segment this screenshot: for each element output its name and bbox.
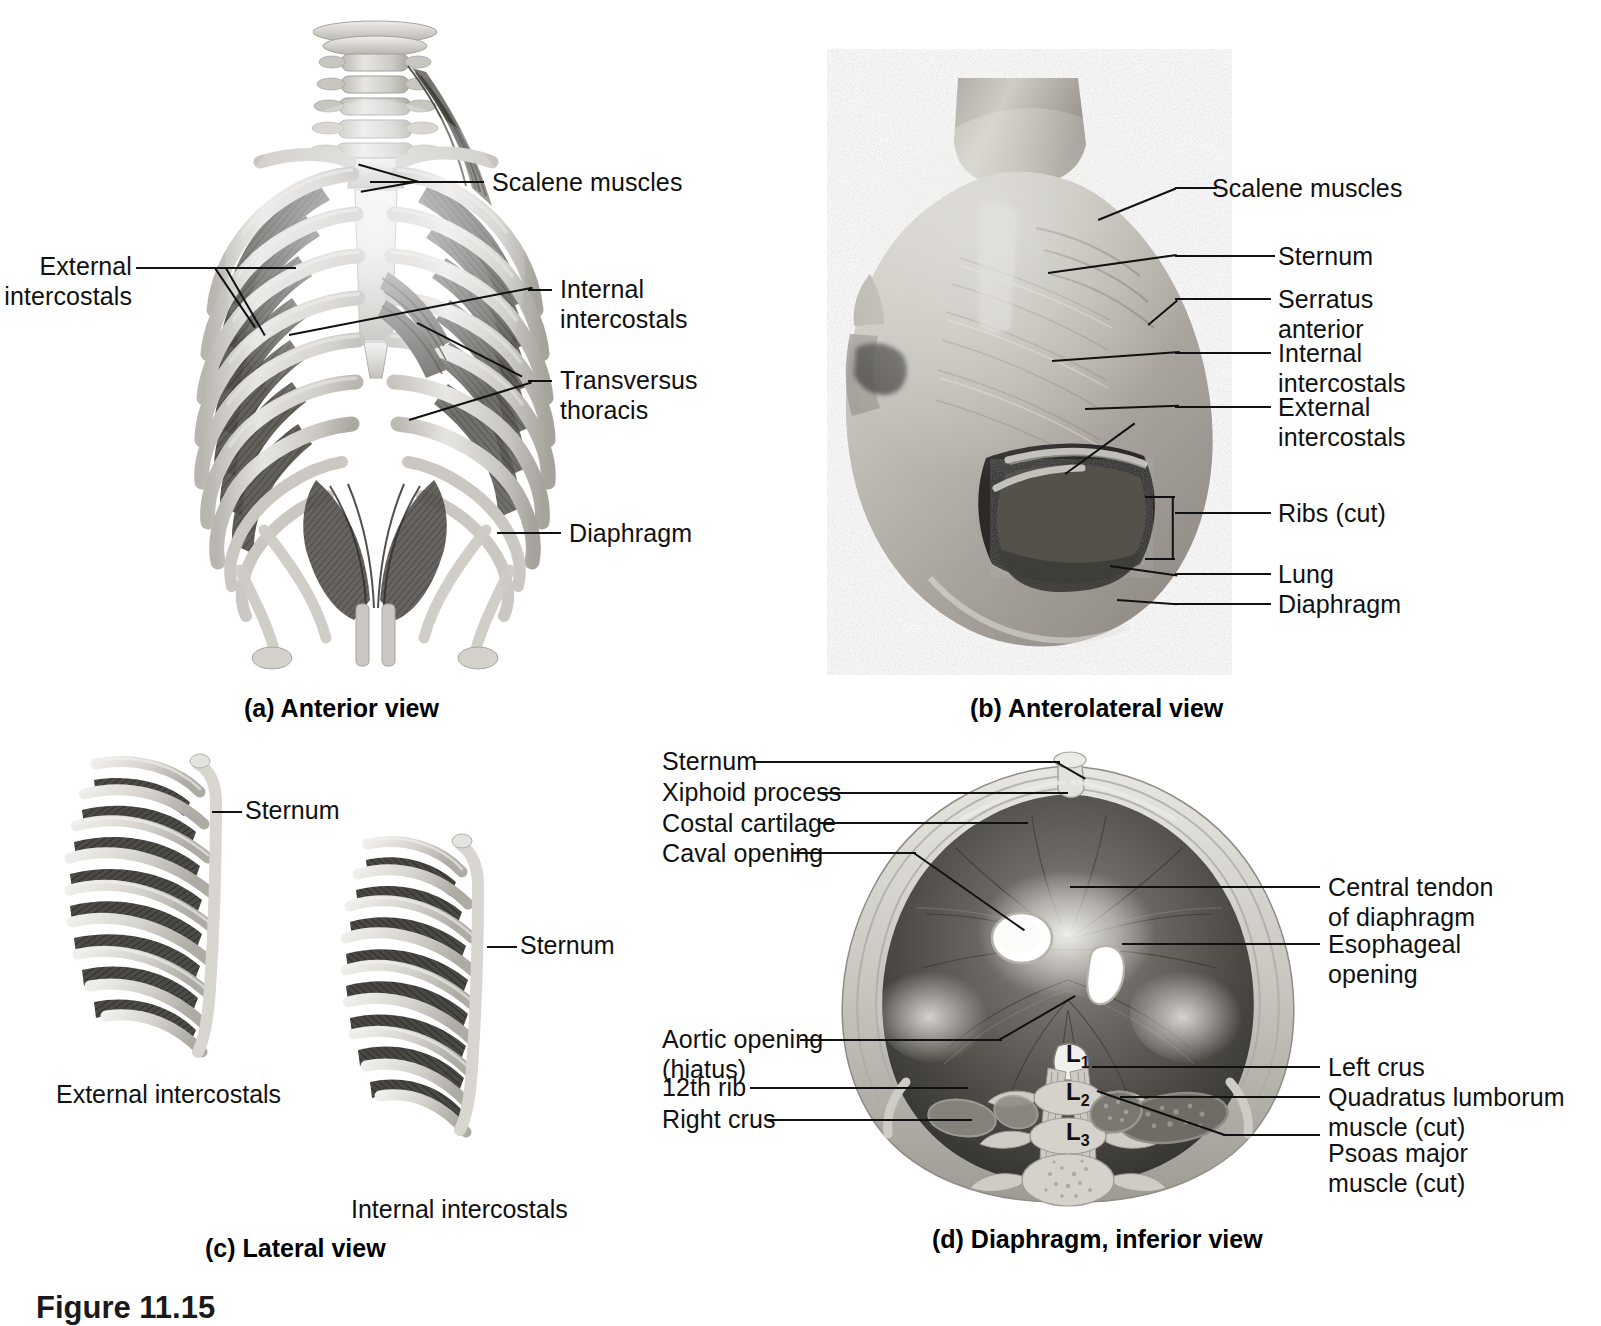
- leader-twelfth-rib-d: [750, 1087, 968, 1089]
- panel-a-artwork: [120, 10, 640, 680]
- label-quadratus-lumborum-d: Quadratus lumborum muscle (cut): [1328, 1082, 1565, 1142]
- label-caval-opening-d: Caval opening: [662, 838, 823, 868]
- label-scalene-muscles-b: Scalene muscles: [1212, 173, 1402, 203]
- label-serratus-anterior-b: Serratus anterior: [1278, 284, 1373, 344]
- label-central-tendon-d: Central tendon of diaphragm: [1328, 872, 1493, 932]
- panel-b-artwork: [810, 78, 1250, 658]
- label-lung-b: Lung: [1278, 559, 1334, 589]
- leader-diaphragm-a: [497, 532, 561, 534]
- leader-ribs-cut-b-bottom: [1145, 558, 1175, 560]
- leader-ribs-cut-b-bracket: [1172, 497, 1174, 560]
- label-internal-intercostals-a: Internal intercostals: [560, 274, 688, 334]
- label-sternum-b: Sternum: [1278, 241, 1373, 271]
- panel-a-anterior-view: Scalene muscles External intercostals In…: [0, 0, 760, 730]
- leader-ribs-cut-b: [1175, 512, 1271, 514]
- leader-quadratus-lumborum-d: [1120, 1096, 1320, 1098]
- label-scalene-muscles-a: Scalene muscles: [492, 167, 682, 197]
- caption-panel-d: (d) Diaphragm, inferior view: [932, 1225, 1263, 1254]
- leader-psoas-major-d: [1223, 1134, 1320, 1136]
- label-ribs-cut-b: Ribs (cut): [1278, 498, 1386, 528]
- label-diaphragm-b: Diaphragm: [1278, 589, 1401, 619]
- label-external-intercostals-b: External intercostals: [1278, 392, 1406, 452]
- leader-left-crus-d: [1092, 1066, 1320, 1068]
- label-internal-intercostals-b: Internal intercostals: [1278, 338, 1406, 398]
- leader-right-crus-d: [768, 1119, 972, 1121]
- leader-lung-b: [1175, 573, 1271, 575]
- caval-opening-aperture: [992, 913, 1052, 963]
- label-xiphoid-process-d: Xiphoid process: [662, 777, 841, 807]
- leader-scalene-a: [370, 181, 484, 183]
- vertebra-label-l3: L3: [1066, 1118, 1090, 1150]
- rib-set-lateral-right: [346, 834, 478, 1132]
- panel-c-internal-intercostals-artwork: [330, 826, 560, 1136]
- leader-transversus-thoracis-a: [528, 380, 552, 382]
- label-esophageal-opening-d: Esophageal opening: [1328, 929, 1461, 989]
- vertebra-l3-number: 3: [1081, 1132, 1090, 1149]
- figure-number: Figure 11.15: [36, 1290, 215, 1326]
- leader-central-tendon-d: [1070, 886, 1320, 888]
- leader-xiphoid-process-d: [818, 792, 1068, 794]
- rib-set-lateral-left: [70, 754, 216, 1052]
- label-psoas-major-d: Psoas major muscle (cut): [1328, 1138, 1468, 1198]
- vertebra-l1-number: 1: [1081, 1054, 1090, 1071]
- caption-panel-a: (a) Anterior view: [244, 694, 439, 723]
- label-twelfth-rib-d: 12th rib: [662, 1072, 746, 1102]
- label-external-intercostals-a: External intercostals: [0, 251, 132, 311]
- label-sternum-c-right: Sternum: [520, 931, 614, 960]
- vertebra-l1-letter: L: [1066, 1040, 1081, 1067]
- label-costal-cartilage-d: Costal cartilage: [662, 808, 836, 838]
- leader-scalene-b: [1175, 187, 1217, 189]
- leader-esophageal-opening-d: [1122, 943, 1320, 945]
- panel-d-diaphragm-inferior-view: Sternum Xiphoid process Costal cartilage…: [640, 730, 1601, 1311]
- label-internal-intercostals-c: Internal intercostals: [351, 1195, 568, 1224]
- leader-sternum-c-right: [487, 946, 517, 948]
- vertebra-label-l1: L1: [1066, 1040, 1090, 1072]
- leader-internal-intercostals-a: [528, 289, 552, 291]
- label-external-intercostals-c: External intercostals: [56, 1080, 281, 1109]
- leader-costal-cartilage-d: [818, 822, 1028, 824]
- leader-serratus-anterior-b: [1175, 298, 1271, 300]
- leader-diaphragm-b: [1175, 603, 1271, 605]
- panel-c-lateral-view: Sternum Sternum External intercostals In…: [0, 730, 640, 1290]
- leader-aortic-opening-d: [800, 1039, 1002, 1041]
- leader-sternum-b: [1175, 255, 1275, 257]
- vertebra-l2-number: 2: [1081, 1092, 1090, 1109]
- caption-panel-b: (b) Anterolateral view: [970, 694, 1223, 723]
- leader-sternum-d: [753, 761, 1060, 763]
- vertebra-label-l2: L2: [1066, 1078, 1090, 1110]
- panel-b-anterolateral-view: Scalene muscles Sternum Serratus anterio…: [780, 0, 1601, 730]
- label-sternum-d: Sternum: [662, 746, 757, 776]
- label-sternum-c-left: Sternum: [245, 796, 339, 825]
- leader-external-intercostals-b: [1175, 406, 1271, 408]
- leader-ribs-cut-b-top: [1145, 496, 1175, 498]
- vertebra-l3-letter: L: [1066, 1118, 1081, 1145]
- leader-internal-intercostals-b: [1175, 352, 1271, 354]
- label-right-crus-d: Right crus: [662, 1104, 776, 1134]
- label-left-crus-d: Left crus: [1328, 1052, 1425, 1082]
- leader-sternum-c-left: [212, 811, 242, 813]
- label-transversus-thoracis-a: Transversus thoracis: [560, 365, 698, 425]
- vertebra-l2-letter: L: [1066, 1078, 1081, 1105]
- label-diaphragm-a: Diaphragm: [569, 518, 692, 548]
- caption-panel-c: (c) Lateral view: [205, 1234, 386, 1263]
